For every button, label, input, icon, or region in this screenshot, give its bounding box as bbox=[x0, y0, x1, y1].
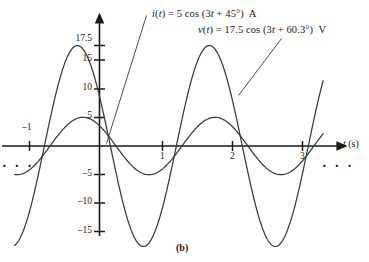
right-ellipsis: · · · bbox=[322, 160, 354, 174]
y-tick-label--10: –10 bbox=[54, 197, 92, 207]
left-ellipsis: · · · bbox=[2, 160, 34, 174]
voltage-equation-label: v(t) = 17.5 cos (3t + 60.3°) V bbox=[198, 25, 326, 36]
x-tick-label-3: 3 bbox=[300, 152, 305, 162]
x-axis-label: t (s) bbox=[343, 139, 359, 149]
figure-caption: (b) bbox=[176, 243, 188, 253]
y-tick-label--5: –5 bbox=[54, 169, 92, 179]
axis-lines bbox=[2, 22, 338, 236]
y-tick-label--15: –15 bbox=[54, 226, 92, 236]
y-tick-label-10: 10 bbox=[54, 83, 92, 93]
x-tick-label-1: 1 bbox=[160, 152, 165, 162]
current-label-leader-line bbox=[107, 16, 147, 144]
voltage-label-leader-line bbox=[239, 39, 282, 96]
figure-container: i(t) = 5 cos (3t + 45°) A v(t) = 17.5 co… bbox=[0, 0, 369, 262]
x-tick-label-2: 2 bbox=[230, 152, 235, 162]
y-tick-label-15: 15 bbox=[54, 54, 92, 64]
x-tick-label--1: –1 bbox=[22, 123, 32, 133]
y-tick-label-5: 5 bbox=[54, 111, 92, 121]
current-equation-label: i(t) = 5 cos (3t + 45°) A bbox=[152, 9, 256, 20]
y-tick-label-17p5: 17.5 bbox=[54, 34, 92, 44]
